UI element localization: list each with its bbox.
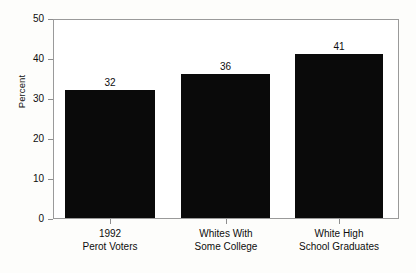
bar[interactable]: 41 bbox=[295, 54, 383, 218]
y-tick-label: 10 bbox=[33, 173, 44, 184]
y-tick-label: 30 bbox=[33, 93, 44, 104]
x-axis-label-line: Whites With bbox=[195, 228, 258, 241]
x-axis-label-line: 1992 bbox=[82, 228, 137, 241]
x-axis-label-line: Perot Voters bbox=[82, 241, 137, 254]
bar-value-label: 32 bbox=[104, 77, 115, 88]
x-axis-label: White HighSchool Graduates bbox=[299, 228, 379, 253]
x-axis-label-line: White High bbox=[299, 228, 379, 241]
y-axis-title: Percent bbox=[16, 32, 27, 152]
plot-area: 323641 bbox=[53, 19, 399, 219]
y-tick-label: 0 bbox=[38, 213, 44, 224]
x-axis-label: Whites WithSome College bbox=[195, 228, 258, 253]
x-tick-mark bbox=[110, 219, 111, 224]
bar[interactable]: 36 bbox=[181, 74, 270, 218]
bar-chart-figure: Percent 01020304050 323641 1992Perot Vot… bbox=[0, 0, 416, 273]
x-tick-mark bbox=[339, 219, 340, 224]
x-axis-label: 1992Perot Voters bbox=[82, 228, 137, 253]
bar[interactable]: 32 bbox=[65, 90, 155, 218]
y-tick-label: 20 bbox=[33, 133, 44, 144]
bar-value-label: 36 bbox=[220, 61, 231, 72]
x-axis-label-line: Some College bbox=[195, 241, 258, 254]
bar-value-label: 41 bbox=[333, 41, 344, 52]
y-tick-mark bbox=[48, 219, 53, 220]
x-tick-mark bbox=[226, 219, 227, 224]
y-tick-label: 50 bbox=[33, 13, 44, 24]
x-axis-label-line: School Graduates bbox=[299, 241, 379, 254]
y-tick-label: 40 bbox=[33, 53, 44, 64]
